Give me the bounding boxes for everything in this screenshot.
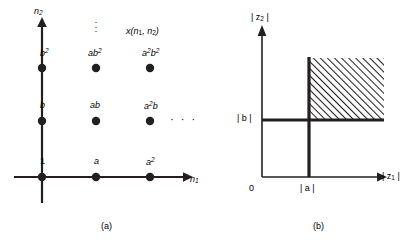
panel-b-graphic xyxy=(205,0,415,247)
tick-label-abs-b: | b | xyxy=(237,114,252,123)
lattice-point xyxy=(38,64,46,72)
point-label-ab: ab xyxy=(90,101,100,110)
panel-b: | z1 | | z2 | 0 | a | | b | (b) xyxy=(205,0,415,247)
panel-a: n1 n2 x(n1, n2) 1 a a2 b ab a2b b2 ab2 a… xyxy=(0,0,210,247)
lattice-point xyxy=(146,173,154,181)
roc-region xyxy=(309,58,384,120)
vertical-ellipsis: ··· xyxy=(92,20,100,34)
figure-container: n1 n2 x(n1, n2) 1 a a2 b ab a2b b2 ab2 a… xyxy=(0,0,415,247)
horizontal-ellipsis: · · · xyxy=(170,113,197,125)
lattice-point xyxy=(38,117,46,125)
tick-label-abs-a: | a | xyxy=(300,184,315,193)
origin-label: 0 xyxy=(249,184,254,193)
point-label-b: b xyxy=(40,101,45,110)
z1-axis xyxy=(262,173,387,182)
point-label-b2: b2 xyxy=(40,48,49,58)
n1-axis-label: n1 xyxy=(190,175,199,185)
z2-axis-label: | z2 | xyxy=(251,13,269,23)
panel-b-caption: (b) xyxy=(313,221,324,231)
n2-axis-label: n2 xyxy=(34,7,43,17)
point-label-1: 1 xyxy=(40,157,45,166)
signal-annotation: x(n1, n2) xyxy=(126,27,159,37)
lattice-point xyxy=(146,117,154,125)
point-label-a2b: a2b xyxy=(144,101,158,111)
lattice-point xyxy=(92,173,100,181)
point-label-ab2: ab2 xyxy=(88,48,102,58)
point-label-a2: a2 xyxy=(146,157,155,167)
lattice-point xyxy=(38,173,46,181)
point-label-a2b2: a2b2 xyxy=(142,48,159,58)
panel-a-caption: (a) xyxy=(101,221,112,231)
lattice-point xyxy=(92,64,100,72)
point-label-a: a xyxy=(94,157,99,166)
lattice-point xyxy=(92,117,100,125)
lattice-point xyxy=(146,64,154,72)
z1-axis-label: | z1 | xyxy=(382,172,400,182)
z2-axis xyxy=(258,25,267,177)
